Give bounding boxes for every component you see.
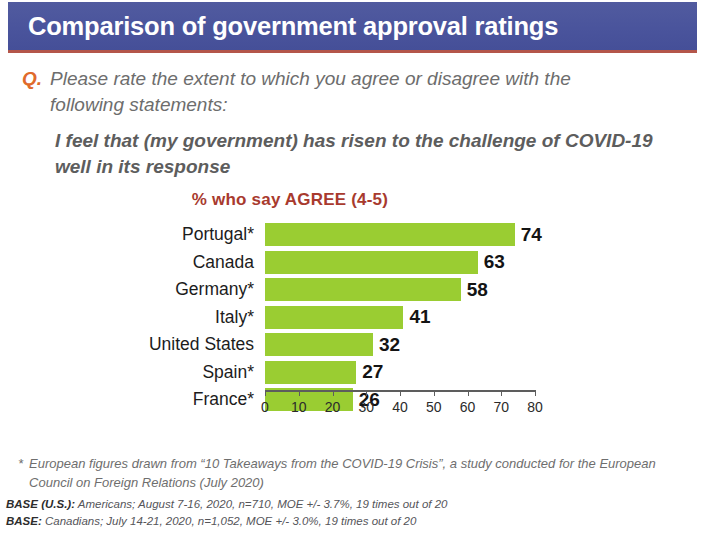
bar-chart: % who say AGREE (4-5) Portugal*74Canada6…	[0, 190, 707, 450]
base-note-canada-text: Canadians; July 14-21, 2020, n=1,052, MO…	[45, 515, 416, 527]
bar	[265, 361, 356, 384]
x-axis-tick-label: 40	[392, 399, 408, 415]
title-underline-divider	[8, 50, 697, 53]
base-note-canada-label: BASE:	[6, 515, 42, 527]
x-axis-tick-label: 60	[460, 399, 476, 415]
x-axis-tick	[366, 390, 367, 396]
bar-row: Canada63	[0, 250, 580, 275]
bar-row: Portugal*74	[0, 222, 580, 247]
bar	[265, 306, 403, 329]
bar-value-label: 32	[379, 334, 400, 356]
bar-category-label: Italy*	[0, 307, 258, 328]
bar	[265, 251, 478, 274]
question-marker: Q.	[22, 66, 42, 92]
statement-text: I feel that (my government) has risen to…	[55, 128, 655, 180]
chart-x-axis: 01020304050607080	[0, 390, 580, 420]
bar-value-label: 63	[484, 251, 505, 273]
x-axis-tick	[535, 390, 536, 396]
bar-category-label: Canada	[0, 252, 258, 273]
bar-row: United States32	[0, 332, 580, 357]
bar	[265, 278, 461, 301]
x-axis-tick-label: 20	[325, 399, 341, 415]
base-note-us-label: BASE (U.S.):	[6, 498, 75, 510]
footnote: * European figures drawn from “10 Takeaw…	[18, 455, 690, 493]
page-title: Comparison of government approval rating…	[28, 12, 558, 41]
x-axis-tick	[400, 390, 401, 396]
x-axis-tick-label: 30	[358, 399, 374, 415]
bar-row: Spain*27	[0, 360, 580, 385]
bar-category-label: Portugal*	[0, 224, 258, 245]
bar-value-label: 27	[362, 361, 383, 383]
bar-row: Germany*58	[0, 277, 580, 302]
bar	[265, 333, 373, 356]
base-note-us: BASE (U.S.): Americans; August 7-16, 202…	[6, 498, 447, 510]
x-axis-tick	[265, 390, 266, 396]
title-banner: Comparison of government approval rating…	[8, 2, 697, 50]
x-axis-tick-label: 80	[527, 399, 543, 415]
chart-title: % who say AGREE (4-5)	[0, 190, 580, 210]
bar-category-label: Spain*	[0, 362, 258, 383]
question-row: Q. Please rate the extent to which you a…	[22, 66, 682, 117]
x-axis-tick-label: 0	[261, 399, 269, 415]
bar-row: Italy*41	[0, 305, 580, 330]
bar-value-label: 74	[521, 224, 542, 246]
base-note-us-text: Americans; August 7-16, 2020, n=710, MOE…	[78, 498, 448, 510]
bar-value-label: 41	[409, 306, 430, 328]
x-axis-tick-label: 50	[426, 399, 442, 415]
bar	[265, 223, 515, 246]
question-text: Please rate the extent to which you agre…	[50, 66, 640, 117]
footnote-asterisk: *	[18, 455, 23, 493]
base-note-canada: BASE: Canadians; July 14-21, 2020, n=1,0…	[6, 515, 416, 527]
x-axis-tick	[501, 390, 502, 396]
bar-value-label: 58	[467, 279, 488, 301]
question-block: Q. Please rate the extent to which you a…	[22, 66, 682, 117]
x-axis-tick	[333, 390, 334, 396]
x-axis-tick	[468, 390, 469, 396]
x-axis-tick-label: 70	[493, 399, 509, 415]
x-axis-tick	[434, 390, 435, 396]
x-axis-tick	[299, 390, 300, 396]
footnote-text: European figures drawn from “10 Takeaway…	[29, 455, 690, 493]
bar-category-label: United States	[0, 334, 258, 355]
x-axis-tick-label: 10	[291, 399, 307, 415]
bar-category-label: Germany*	[0, 279, 258, 300]
